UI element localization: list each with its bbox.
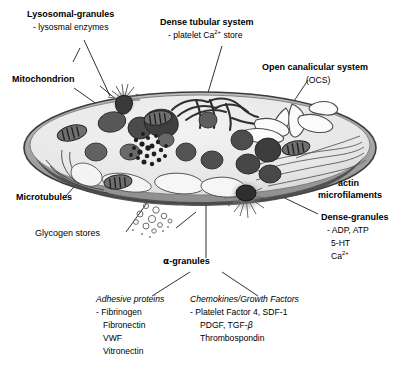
label-dense-tubular-system-title: Dense tubular system [160,17,254,28]
label-microtubules: Microtubules [16,192,72,203]
dts-detail-sup: 2+ [214,29,221,35]
label-chemokines-item-pdgf: PDGF, TGF-β [200,320,253,330]
label-adhesive-proteins-item-2: VWF [103,333,122,343]
label-mitochondrion: Mitochondrion [12,74,75,85]
dg-ca-sup: 2+ [342,250,349,256]
dg-ca-pre: Ca [331,251,342,261]
label-actin-line1: actin [338,178,359,189]
label-chemokines-heading: Chemokines/Growth Factors [190,294,299,304]
label-actin-line2: microfilaments [318,190,382,201]
label-open-canalicular-system-title: Open canalicular system [262,62,368,73]
label-adhesive-proteins-item-1: Fibronectin [103,320,146,330]
label-glycogen-stores: Glycogen stores [35,228,100,239]
label-adhesive-proteins-heading: Adhesive proteins [96,294,164,304]
label-dense-granules-item-0: - ADP, ATP [327,225,369,235]
label-lysosomal-granules-title: Lysosomal-granules [27,9,114,20]
label-chemokines-item-thrombospondin: Thrombospondin [200,333,265,343]
label-alpha-granules: α-granules [163,256,210,267]
label-open-canalicular-system-abbrev: (OCS) [306,75,330,85]
label-dense-granules-item-1: 5-HT [331,238,350,248]
label-dense-granules-item-calcium: Ca2+ [331,251,349,261]
label-dense-granules-title: Dense-granules [321,212,389,223]
label-adhesive-proteins-item-0: - Fibrinogen [96,307,142,317]
label-lysosomal-granules-detail: - lysosmal enzymes [33,22,108,32]
secreted-granule-dots [132,226,169,238]
dts-detail-pre: - platelet Ca [168,30,214,40]
secreted-granules [134,203,172,233]
label-dense-tubular-system-detail: - platelet Ca2+ store [168,30,243,40]
label-adhesive-proteins-item-3: Vitronectin [103,346,143,356]
pdgf-pre: PDGF, TGF- [200,320,248,330]
platelet-diagram-figure: Lysosomal-granules - lysosmal enzymes Mi… [0,0,399,367]
beta-symbol: β [248,320,254,330]
alpha-granules-text: -granules [169,256,210,266]
dts-detail-post: store [221,30,243,40]
label-chemokines-item-0: - Platelet Factor 4, SDF-1 [190,307,287,317]
